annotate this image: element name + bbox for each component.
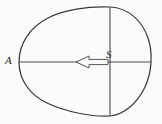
figure-container: A S — [0, 0, 162, 124]
figure-drawing — [0, 0, 162, 124]
hollow-left-arrow — [76, 56, 108, 68]
vertex-label-a: A — [5, 55, 12, 66]
chord-label-s: S — [106, 49, 112, 60]
